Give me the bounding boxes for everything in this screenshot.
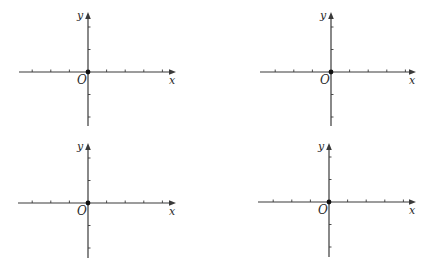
x-axis-label: x	[169, 75, 175, 86]
x-axis-label: x	[409, 75, 415, 86]
y-axis-label: y	[318, 141, 324, 152]
origin-label: O	[320, 74, 330, 86]
coordinate-plane-top-right	[260, 12, 416, 126]
y-axis-label: y	[320, 10, 326, 21]
coordinate-plane-top-left	[19, 12, 176, 126]
coordinate-plane-bottom-left	[18, 143, 176, 258]
origin-label: O	[77, 205, 87, 217]
y-axis-arrow-icon	[85, 12, 91, 19]
y-axis-label: y	[77, 141, 83, 152]
coordinate-plane-bottom-right	[258, 143, 416, 257]
y-axis-arrow-icon	[85, 143, 91, 150]
y-axis-label: y	[77, 10, 83, 21]
x-axis-label: x	[169, 206, 175, 217]
x-axis-label: x	[409, 205, 415, 216]
y-axis-arrow-icon	[328, 12, 334, 19]
y-axis-arrow-icon	[326, 143, 332, 150]
origin-label: O	[318, 204, 328, 216]
planes-svg	[0, 0, 427, 272]
origin-label: O	[77, 74, 87, 86]
